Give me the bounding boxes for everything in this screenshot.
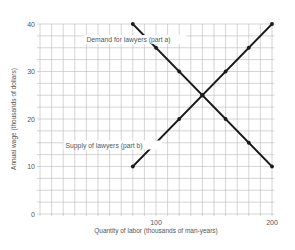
y-axis-label: Annual wage (thousands of dollars): [10, 68, 18, 170]
y-tick-label: 40: [27, 21, 35, 28]
supply-label: Supply of lawyers (part b): [66, 142, 143, 150]
data-point-marker: [177, 117, 181, 121]
y-tick-label: 30: [27, 68, 35, 75]
data-point-marker: [270, 22, 274, 26]
data-point-marker: [247, 141, 251, 145]
y-tick-label: 20: [27, 116, 35, 123]
x-tick-label: 200: [266, 219, 278, 226]
y-tick-label: 0: [31, 211, 35, 218]
data-point-marker: [154, 46, 158, 50]
data-point-marker: [247, 46, 251, 50]
chart: 010203040100200 Demand for lawyers (part…: [0, 0, 295, 250]
data-point-marker: [224, 70, 228, 74]
data-point-marker: [224, 117, 228, 121]
data-point-marker: [201, 93, 205, 97]
data-point-marker: [177, 70, 181, 74]
demand-label: Demand for lawyers (part a): [86, 36, 170, 44]
data-point-marker: [270, 165, 274, 169]
axes: 010203040100200: [27, 21, 278, 227]
grid: [37, 24, 274, 216]
x-tick-label: 100: [150, 219, 162, 226]
x-axis-label: Quantity of labor (thousands of man-year…: [94, 227, 218, 235]
data-point-marker: [131, 22, 135, 26]
y-tick-label: 10: [27, 163, 35, 170]
data-point-marker: [131, 165, 135, 169]
